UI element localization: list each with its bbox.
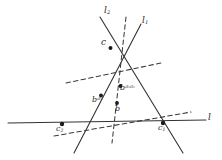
dashed-upper-transversal — [66, 63, 161, 83]
label-point-b: b — [115, 105, 120, 113]
solid-lines — [8, 17, 206, 153]
point-c — [109, 46, 113, 50]
marked-points — [60, 46, 165, 126]
label-line-l2: l2 — [104, 6, 110, 15]
label-line-l1: l1 — [142, 16, 148, 25]
dashed-lines — [54, 17, 191, 143]
line-l2 — [100, 17, 183, 153]
line-l-horizontal — [8, 120, 206, 123]
label-vertex-c: c — [101, 38, 106, 47]
label-vertex-c2: c2 — [56, 125, 63, 133]
label-point-b-sigma1: bσ1 — [92, 96, 102, 104]
geometry-figure — [0, 0, 222, 160]
label-vertex-c1: c1 — [158, 124, 165, 132]
label-point-b-sigma1-sigma2: bσ1σ2 — [120, 84, 135, 92]
label-line-l: l — [208, 113, 211, 122]
